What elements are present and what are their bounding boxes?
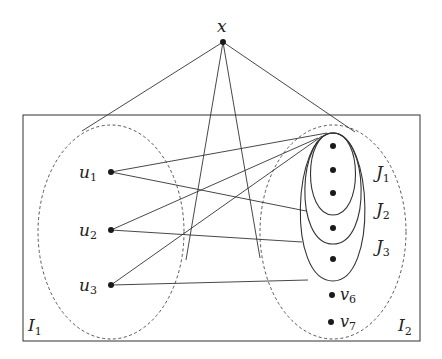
vertex-r2 <box>330 167 336 173</box>
graph-diagram: x u1 u2 u3 v6 v7 J1 J2 J3 I1 I2 <box>0 0 442 359</box>
vertex-v6-label: v6 <box>340 285 356 306</box>
set-i1-label: I1 <box>27 315 42 338</box>
vertex-u2-label: u2 <box>79 220 97 242</box>
vertex-r3 <box>330 190 336 196</box>
edges-u-to-j <box>111 133 327 285</box>
set-j1-label: J1 <box>373 162 390 185</box>
left-vertices: u1 u2 u3 <box>79 162 114 297</box>
vertex-r4 <box>330 225 336 231</box>
vertex-u2 <box>108 227 114 233</box>
set-i2-label: I2 <box>397 315 412 338</box>
vertex-u3-label: u3 <box>79 275 97 297</box>
vertex-u1-label: u1 <box>79 162 97 184</box>
set-j2-label: J2 <box>373 199 390 222</box>
vertex-v7-label: v7 <box>340 312 356 333</box>
vertex-x <box>220 39 226 45</box>
vertex-r1 <box>330 143 336 149</box>
vertex-v6 <box>329 292 335 298</box>
vertex-u1 <box>108 169 114 175</box>
vertex-x-label: x <box>217 16 227 36</box>
right-vertices <box>328 143 336 325</box>
set-j3-label: J3 <box>373 236 390 259</box>
vertex-u3 <box>108 282 114 288</box>
vertex-v7 <box>328 319 334 325</box>
vertex-r5 <box>330 256 336 262</box>
set-i2-ellipse <box>260 125 406 339</box>
